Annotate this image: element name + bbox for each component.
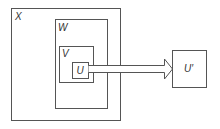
mapping-arrow <box>89 59 173 79</box>
nested-sets-diagram: X W V U U′ <box>0 0 220 129</box>
set-u-prime-label: U′ <box>184 63 194 74</box>
set-u-label: U <box>77 65 85 76</box>
set-x-label: X <box>14 11 22 22</box>
set-w-label: W <box>58 22 69 33</box>
set-v-label: V <box>62 48 70 59</box>
